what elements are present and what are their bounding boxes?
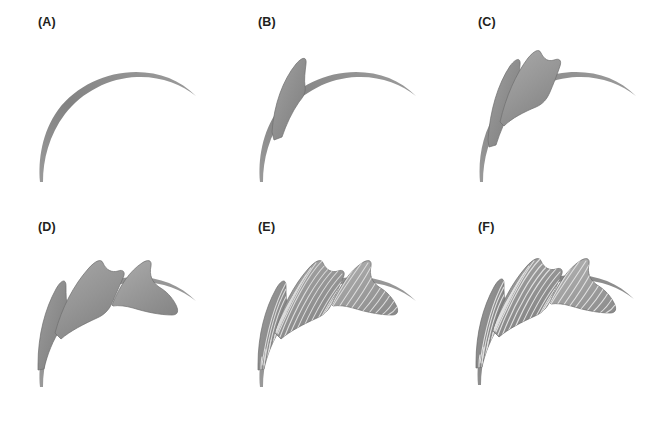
frond-illustration-e bbox=[220, 205, 440, 417]
panel-c: (C) bbox=[440, 0, 660, 212]
leaflet-group-3-f bbox=[550, 259, 616, 313]
leaflet-blade-3-d bbox=[112, 261, 178, 315]
frond-illustration-c bbox=[440, 0, 660, 212]
panel-e: (E) bbox=[220, 205, 440, 417]
rachis-path-a bbox=[40, 72, 196, 182]
frond-illustration-a bbox=[0, 0, 220, 212]
frond-illustration-f bbox=[440, 205, 660, 417]
panel-b: (B) bbox=[220, 0, 440, 212]
leaflet-group-3-e bbox=[332, 261, 398, 315]
panel-f: (F) bbox=[440, 205, 660, 417]
panel-a: (A) bbox=[0, 0, 220, 212]
frond-illustration-b bbox=[220, 0, 440, 212]
leaflet-blade-1-b bbox=[272, 58, 306, 140]
frond-illustration-d bbox=[0, 205, 220, 417]
panel-d: (D) bbox=[0, 205, 220, 417]
figure-root: (A) (B) bbox=[0, 0, 661, 424]
